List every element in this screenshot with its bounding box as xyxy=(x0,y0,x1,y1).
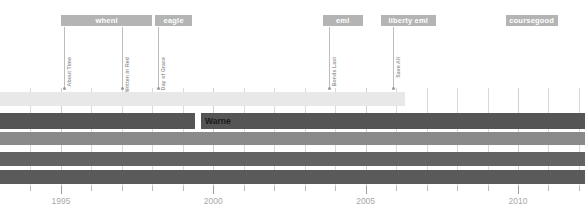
axis-tick-label: 2000 xyxy=(204,196,223,206)
event-stem xyxy=(329,27,330,89)
span-bar-row-1-0[interactable] xyxy=(0,92,405,106)
era-band-0[interactable]: whenl xyxy=(61,15,152,26)
event-label: Save All xyxy=(395,57,401,78)
event-dot-icon xyxy=(121,87,124,90)
axis-tick-minor-1997 xyxy=(122,186,123,191)
axis-tick-major-2010 xyxy=(518,186,519,194)
event-dot-icon xyxy=(392,87,395,90)
axis-tick-major-2005 xyxy=(366,186,367,194)
era-band-label: liberty eml xyxy=(388,16,428,25)
span-bar-row-3-0[interactable] xyxy=(0,132,585,145)
era-band-label: eagle xyxy=(164,16,184,25)
span-bar-row-2-0[interactable] xyxy=(0,113,195,129)
time-axis: 1995200020052010 xyxy=(0,186,585,220)
era-band-label: whenl xyxy=(96,16,118,25)
axis-tick-minor-2002 xyxy=(274,186,275,191)
axis-tick-minor-2011 xyxy=(548,186,549,191)
event-dot-icon xyxy=(328,87,331,90)
event-stem xyxy=(64,27,65,89)
axis-tick-label: 2010 xyxy=(509,196,528,206)
era-band-1[interactable]: eagle xyxy=(155,15,192,26)
era-band-2[interactable]: eml xyxy=(323,15,363,26)
axis-tick-minor-2009 xyxy=(488,186,489,191)
span-bar-label: Warne xyxy=(205,117,231,126)
axis-tick-minor-2012 xyxy=(579,186,580,191)
era-band-label: eml xyxy=(336,16,350,25)
event-label: Written in Red xyxy=(124,57,130,93)
axis-tick-major-1995 xyxy=(61,186,62,194)
era-band-3[interactable]: liberty eml xyxy=(381,15,436,26)
axis-tick-label: 1995 xyxy=(51,196,70,206)
event-label: Day of Grace xyxy=(160,57,166,90)
axis-tick-minor-1999 xyxy=(183,186,184,191)
axis-tick-minor-2008 xyxy=(457,186,458,191)
axis-tick-label: 2005 xyxy=(356,196,375,206)
axis-tick-minor-2004 xyxy=(335,186,336,191)
event-stem xyxy=(122,27,123,89)
era-band-4[interactable]: coursegood xyxy=(506,15,558,26)
event-stem xyxy=(393,27,394,89)
axis-tick-minor-1996 xyxy=(91,186,92,191)
span-bar-row-5-0[interactable] xyxy=(0,170,585,184)
event-label: About Time xyxy=(66,57,72,86)
span-bar-row-4-0[interactable] xyxy=(0,152,585,166)
axis-tick-minor-1994 xyxy=(30,186,31,191)
axis-tick-minor-2007 xyxy=(427,186,428,191)
axis-tick-minor-2006 xyxy=(396,186,397,191)
event-label: Bonds Last xyxy=(331,57,337,86)
axis-tick-minor-2003 xyxy=(305,186,306,191)
axis-tick-major-2000 xyxy=(213,186,214,194)
axis-tick-minor-1998 xyxy=(152,186,153,191)
axis-tick-minor-2001 xyxy=(244,186,245,191)
span-bar-row-2-1[interactable] xyxy=(201,113,585,129)
event-dot-icon xyxy=(63,87,66,90)
timeline-chart: whenleagleemlliberty emlcoursegood About… xyxy=(0,0,585,220)
era-band-label: coursegood xyxy=(509,16,554,25)
